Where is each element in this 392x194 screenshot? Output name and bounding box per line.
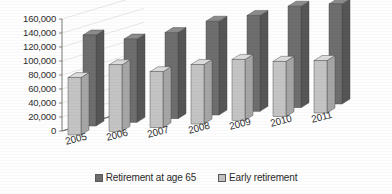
y-axis-tick-40000: 40,000 [0,98,56,107]
dark-square-icon [95,174,103,182]
legend-item-2[interactable]: Early retirement [218,172,297,183]
chart-bar [191,60,212,125]
chart-bar [150,67,171,128]
y-axis-tick-80000: 80,000 [0,70,56,79]
chart-bar [68,73,89,135]
chart-bar [232,54,253,120]
chart-legend: Retirement at age 65Early retirement [0,168,392,194]
chart-container: 020,00040,00060,00080,000100,000120,0001… [0,0,392,194]
chart-bar [273,56,294,116]
legend-label: Retirement at age 65 [106,172,196,183]
chart-canvas [0,0,392,168]
light-square-icon [218,174,226,182]
y-axis-tick-60000: 60,000 [0,84,56,93]
legend-item-1[interactable]: Retirement at age 65 [95,172,196,183]
y-axis-tick-0: 0 [0,126,56,135]
y-axis-tick-160000: 160,000 [0,14,56,23]
y-axis-tick-120000: 120,000 [0,42,56,51]
chart-bar [314,56,335,114]
y-axis-tick-100000: 100,000 [0,56,56,65]
chart-bar [109,60,130,132]
plot-area [0,0,392,168]
y-axis-tick-20000: 20,000 [0,112,56,121]
legend-label: Early retirement [229,172,297,183]
y-axis-tick-140000: 140,000 [0,28,56,37]
